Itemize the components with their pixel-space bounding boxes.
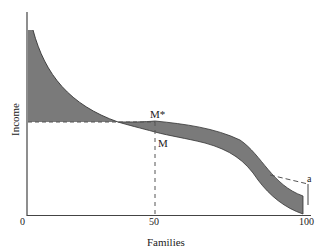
shaded-region-top-incomes	[28, 30, 118, 122]
y-axis-label: Income	[9, 103, 21, 136]
point-label-m: M	[158, 137, 168, 149]
x-tick-0: 0	[20, 216, 25, 227]
income-distribution-diagram: M* M a 0 50 100 Families Income	[0, 0, 325, 252]
point-label-a: a	[307, 173, 312, 184]
x-axis-label: Families	[147, 236, 185, 248]
x-tick-50: 50	[149, 216, 159, 227]
shaded-band-between-curves	[118, 121, 303, 214]
x-tick-100: 100	[299, 216, 314, 227]
point-label-m-star: M*	[150, 108, 165, 120]
